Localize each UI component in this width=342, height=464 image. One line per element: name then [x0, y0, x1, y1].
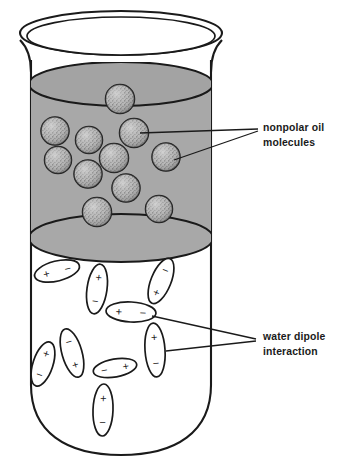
- oil-layer-bottom-surface: [29, 214, 213, 262]
- oil-molecule: [100, 144, 129, 173]
- beaker-neck-left: [20, 40, 31, 72]
- oil-molecule: [83, 198, 112, 227]
- oil-molecule: [152, 143, 180, 171]
- dipole-minus: −: [139, 306, 146, 318]
- label-oil-line1: nonpolar oil: [263, 122, 324, 133]
- dipole-plus: +: [100, 392, 107, 404]
- dipole-minus: −: [152, 357, 159, 369]
- label-water-dipole: water dipole interaction: [262, 331, 325, 357]
- oil-molecule: [106, 85, 135, 114]
- oil-molecule: [76, 127, 103, 154]
- dipole-plus: +: [115, 305, 122, 317]
- dipole-plus: +: [150, 331, 157, 343]
- oil-molecule: [146, 196, 173, 223]
- oil-molecule: [41, 117, 69, 145]
- label-nonpolar-oil: nonpolar oil molecules: [263, 122, 324, 148]
- diagram-root: + − + − − + + − − + + −: [0, 0, 342, 464]
- oil-molecule: [112, 174, 140, 202]
- beaker-neck-right: [211, 40, 222, 72]
- oil-molecule: [74, 160, 102, 188]
- oil-molecule: [45, 147, 72, 174]
- label-water-line2: interaction: [263, 346, 318, 357]
- label-oil-line2: molecules: [263, 137, 315, 148]
- label-water-line1: water dipole: [262, 331, 325, 342]
- dipole-minus: −: [99, 416, 106, 428]
- beaker-rim-inner: [27, 17, 215, 55]
